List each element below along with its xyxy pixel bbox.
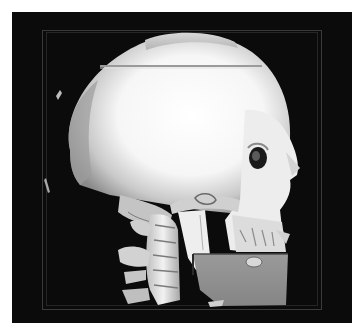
artifact-fragment (44, 178, 50, 193)
skull-ct-render (0, 0, 364, 335)
artifact-fragment (56, 90, 62, 100)
hyoid-fragment (208, 300, 224, 307)
cervical-spine (118, 214, 180, 305)
mandible-cut-plane (193, 254, 288, 306)
caption (0, 323, 364, 335)
